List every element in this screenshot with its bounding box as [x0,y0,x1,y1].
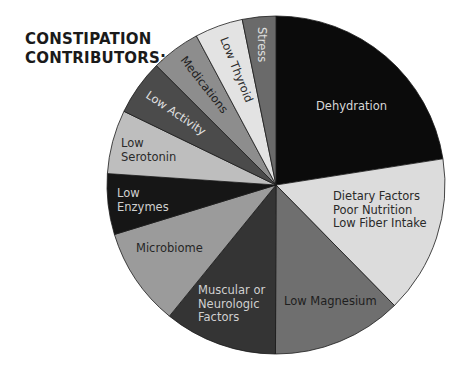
slice-label: Dehydration [316,99,387,113]
slice-label: Stress [255,27,269,62]
slice-label: Microbiome [136,241,203,255]
pie-slices [107,16,445,354]
slice-label: Low Magnesium [284,294,377,308]
pie-chart: DehydrationDietary FactorsPoor Nutrition… [0,0,471,366]
